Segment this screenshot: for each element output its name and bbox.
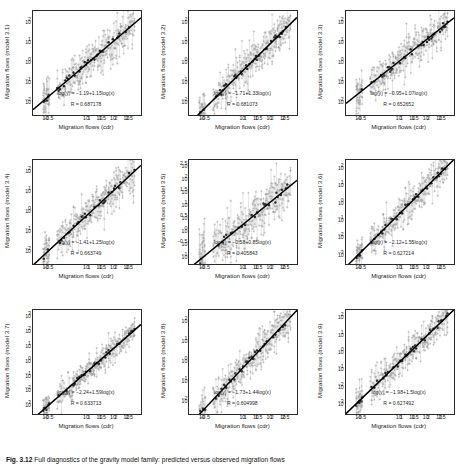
data-point-light (411, 211, 413, 213)
data-point-light (431, 333, 433, 335)
data-point-light (105, 180, 107, 182)
panel-model-3.3: Migration flows (model 3.3)10210110010−1… (313, 2, 469, 151)
data-point-light (237, 218, 239, 220)
x-tick-label: 101.5 (409, 414, 415, 420)
y-tick-label: 100 (182, 358, 188, 364)
data-point-light (246, 369, 248, 371)
data-point-light (83, 71, 85, 73)
data-point-mean (128, 172, 130, 175)
data-point-light (261, 60, 263, 62)
data-point-mean (43, 258, 46, 261)
y-axis-ticks: 10210110010−110−210−3 (323, 309, 344, 413)
data-point-light (389, 77, 391, 79)
data-point-light (276, 205, 278, 207)
data-point-light (111, 354, 113, 356)
data-point-light (282, 18, 284, 20)
y-tick-label: 100 (338, 349, 344, 355)
data-point-light (263, 330, 265, 332)
data-point-light (86, 206, 88, 208)
data-point-light (127, 17, 129, 19)
data-point-light (110, 59, 112, 61)
data-point-light (214, 224, 216, 226)
data-point-light (87, 223, 89, 225)
data-point-light (82, 228, 84, 230)
data-point-light (126, 186, 128, 188)
data-point-light (84, 68, 86, 70)
data-point-light (255, 345, 257, 347)
data-point-light (384, 357, 386, 359)
data-point-light (87, 66, 89, 68)
data-point-light (252, 202, 254, 204)
data-point-light (403, 343, 405, 345)
data-point-light (91, 196, 93, 198)
data-point-light (414, 208, 416, 210)
data-point-light (402, 70, 404, 72)
data-point-light (408, 359, 410, 361)
data-point-mean (118, 32, 121, 35)
data-point-light (429, 325, 431, 327)
data-point-light (91, 65, 93, 67)
y-tick-label: 100 (25, 358, 31, 364)
data-point-light (93, 46, 95, 48)
data-point-light (407, 33, 409, 35)
data-point-light (273, 31, 275, 33)
data-point-light (407, 330, 409, 332)
data-point-light (407, 217, 409, 219)
data-point-light (446, 174, 448, 176)
data-point-light (385, 367, 387, 369)
data-point-light (242, 356, 244, 358)
data-point-light (280, 45, 282, 47)
data-point-light (273, 23, 275, 25)
data-point-light (400, 43, 402, 45)
data-point-light (78, 383, 80, 385)
data-point-light (282, 15, 284, 17)
data-point-light (105, 344, 107, 346)
data-point-light (48, 112, 50, 114)
data-point-light (270, 30, 272, 32)
regression-equation: log(y) = −1.19+1.15log(x) (32, 90, 140, 96)
data-point-light (253, 226, 255, 228)
data-point-light (286, 29, 288, 31)
data-point-light (256, 48, 258, 50)
data-point-light (410, 205, 412, 207)
data-point-light (121, 37, 123, 39)
data-point-light (254, 196, 256, 198)
data-point-light (88, 352, 90, 354)
data-point-light (113, 355, 115, 357)
data-point-light (281, 319, 283, 321)
data-point-light (441, 162, 443, 164)
y-tick-label: 102 (338, 165, 344, 171)
data-point-light (125, 351, 127, 353)
data-point-light (409, 190, 411, 192)
data-point-light (107, 332, 109, 334)
data-point-light (82, 83, 84, 85)
data-point-light (403, 39, 405, 41)
data-point-light (393, 369, 395, 371)
data-point-light (285, 314, 287, 316)
data-point-light (100, 205, 102, 207)
data-point-light (228, 226, 230, 228)
data-point-light (110, 344, 112, 346)
data-point-light (431, 203, 433, 205)
data-point-light (218, 233, 220, 235)
x-tick-label: 101 (83, 115, 89, 121)
data-point-light (243, 371, 245, 373)
data-point-light (410, 360, 412, 362)
data-point-light (114, 362, 116, 364)
data-point-light (243, 232, 245, 234)
data-point-light (132, 202, 134, 204)
data-point-light (113, 336, 115, 338)
data-point-light (415, 31, 417, 33)
data-point-light (407, 45, 409, 47)
data-point-light (277, 19, 279, 21)
data-point-light (392, 227, 394, 229)
data-point-light (243, 50, 245, 52)
data-point-light (82, 221, 84, 223)
data-point-light (128, 346, 130, 348)
data-point-light (72, 234, 74, 236)
data-point-light (123, 52, 125, 54)
figure-caption: Fig. 3.12 Full diagnostics of the gravit… (6, 455, 306, 471)
data-point-light (252, 44, 254, 46)
data-point-light (376, 395, 378, 397)
data-point-light (433, 170, 435, 172)
